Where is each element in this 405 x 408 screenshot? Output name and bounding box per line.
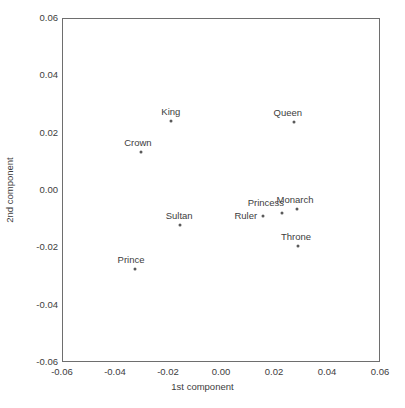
data-point-label: King	[161, 107, 180, 117]
data-point-label: Queen	[274, 108, 303, 118]
data-point	[134, 267, 137, 270]
y-axis-tick: 0.00	[0, 185, 58, 195]
x-axis-label-text: 1st component	[171, 381, 233, 392]
data-point	[280, 212, 283, 215]
y-axis-tick: 0.02	[0, 128, 58, 138]
x-axis-tick: -0.06	[51, 367, 73, 377]
y-axis-tick: 0.06	[0, 13, 58, 23]
data-point	[261, 214, 264, 217]
data-point-label: Throne	[281, 232, 311, 242]
data-point-label: Princess	[248, 198, 284, 208]
data-point	[179, 224, 182, 227]
data-point-label: Sultan	[166, 211, 193, 221]
y-axis-tick: -0.06	[0, 357, 58, 367]
x-axis-tick: 0.00	[212, 367, 231, 377]
data-point	[292, 121, 295, 124]
x-axis-tick: 0.04	[318, 367, 337, 377]
scatter-plot-figure: 2nd component 0.060.040.020.00-0.02-0.04…	[0, 0, 405, 408]
x-axis-tick: 0.06	[371, 367, 390, 377]
data-point-label: Crown	[124, 138, 151, 148]
data-point	[169, 120, 172, 123]
data-point-label: Ruler	[234, 210, 257, 220]
y-axis-label: 2nd component	[2, 0, 16, 408]
data-point	[295, 208, 298, 211]
y-axis-tick: 0.04	[0, 71, 58, 81]
x-axis-tick: -0.02	[157, 367, 179, 377]
x-axis-tick: 0.02	[265, 367, 284, 377]
data-point-label: Prince	[118, 254, 145, 264]
data-point	[297, 245, 300, 248]
x-axis-tick: -0.04	[104, 367, 126, 377]
x-axis-label: 1st component	[0, 381, 405, 392]
plot-area: KingCrownQueenMonarchPrincessRulerSultan…	[62, 18, 380, 362]
y-axis-tick: -0.02	[0, 243, 58, 253]
data-point	[139, 151, 142, 154]
y-axis-tick: -0.04	[0, 300, 58, 310]
